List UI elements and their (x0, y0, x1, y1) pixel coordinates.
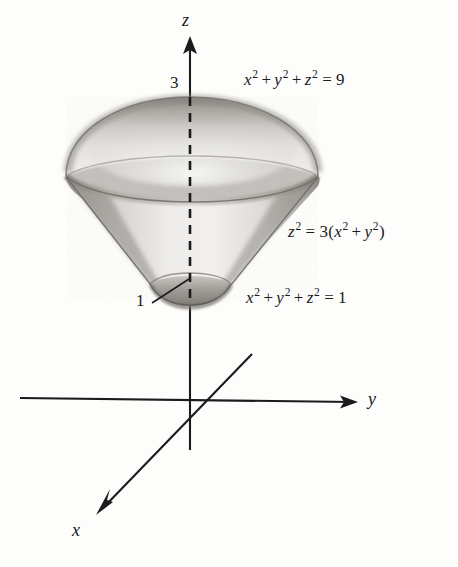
eq-term: x2 (246, 288, 260, 307)
eq-term: y2 (365, 222, 379, 241)
eq-term: x2 (244, 70, 258, 89)
eq-value: 9 (336, 70, 345, 89)
eq-term: y2 (276, 288, 290, 307)
z-axis-label: z (182, 10, 189, 31)
x-axis-label: x (72, 520, 80, 541)
eq-term: z2 (288, 222, 302, 241)
tick-label-3: 3 (170, 73, 179, 93)
eq-operator: + (289, 70, 305, 89)
eq-term: z2 (305, 70, 319, 89)
x-axis (96, 354, 252, 515)
eq-coefficient: 3 (319, 222, 328, 241)
figure-container: z y x 3 1 x2+y2+z2=9 z2=3(x2+y2) x2+y2+z… (0, 0, 458, 567)
eq-term: z2 (307, 288, 321, 307)
bounded-solid (66, 97, 320, 307)
eq-paren-close: ) (379, 222, 385, 241)
y-axis-label: y (368, 389, 376, 410)
eq-value: 1 (338, 288, 347, 307)
equation-outer-sphere: x2+y2+z2=9 (244, 70, 345, 90)
tick-label-1: 1 (136, 291, 145, 311)
eq-equals: = (318, 70, 336, 89)
eq-operator: + (258, 70, 274, 89)
eq-operator: + (349, 222, 365, 241)
eq-equals: = (320, 288, 338, 307)
eq-term: x2 (334, 222, 348, 241)
eq-operator: + (260, 288, 276, 307)
eq-term: y2 (274, 70, 288, 89)
solid-region-illustration (0, 0, 458, 567)
eq-equals: = (302, 222, 320, 241)
solid-grain-overlay (66, 97, 318, 302)
eq-operator: + (291, 288, 307, 307)
equation-inner-sphere: x2+y2+z2=1 (246, 288, 347, 308)
equation-cone: z2=3(x2+y2) (288, 222, 385, 242)
